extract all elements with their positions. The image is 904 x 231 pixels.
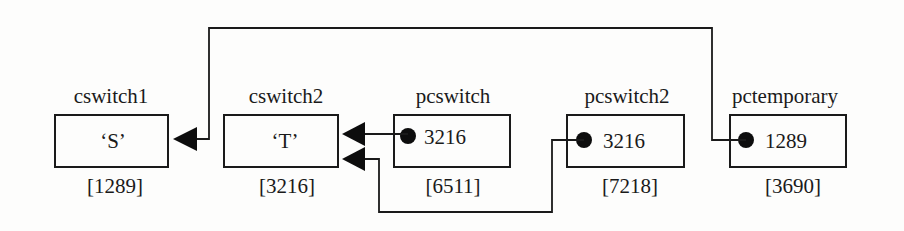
arrowhead-icon: [173, 127, 197, 151]
variable-name: pctemporary: [732, 84, 839, 108]
memory-address: [3690]: [765, 174, 821, 198]
arrowhead-icon: [342, 147, 365, 171]
cell-value: 3216: [424, 125, 466, 149]
variable-cswitch2: cswitch2 ‘T’ [3216]: [224, 84, 338, 198]
variable-cswitch1: cswitch1 ‘S’ [1289]: [55, 84, 168, 198]
pointer-dot-icon: [400, 128, 416, 144]
cell-value: 1289: [765, 129, 807, 153]
variable-name: cswitch1: [74, 84, 149, 108]
cell-value: ‘S’: [100, 129, 126, 153]
arrowhead-icon: [342, 122, 365, 146]
variable-pcswitch: pcswitch 3216 [6511]: [394, 84, 510, 198]
cell-value: 3216: [603, 129, 645, 153]
variable-name: pcswitch: [416, 84, 491, 108]
cell-value: ‘T’: [272, 129, 299, 153]
memory-address: [3216]: [259, 174, 315, 198]
pointer-arrow-pcswitch-to-cswitch2: [342, 122, 408, 146]
pointer-diagram: cswitch1 ‘S’ [1289] cswitch2 ‘T’ [3216] …: [0, 0, 904, 231]
variable-pcswitch2: pcswitch2 3216 [7218]: [567, 84, 684, 198]
memory-address: [6511]: [425, 174, 480, 198]
memory-address: [1289]: [87, 174, 143, 198]
variable-pctemporary: pctemporary 1289 [3690]: [730, 84, 846, 198]
variable-name: cswitch2: [249, 84, 324, 108]
memory-address: [7218]: [602, 174, 658, 198]
variable-name: pcswitch2: [584, 84, 669, 108]
